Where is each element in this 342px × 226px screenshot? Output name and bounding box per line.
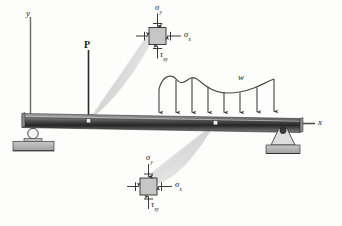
y-axis-label: y [26,9,30,18]
sigma-x-label-top: σx [184,30,191,41]
callout-cone-top [89,28,153,121]
tau-xy-label-bottom: τxy [151,200,159,211]
stress-point-marker-bottom [213,120,218,125]
beam [22,113,303,133]
sigma-x-label-bottom: σx [175,180,182,191]
distributed-load [159,76,274,112]
x-axis-label: x [318,118,322,127]
callout-cone-bottom [152,123,216,187]
sigma-y-label-bottom: σy [146,153,153,164]
sigma-y-label-top: σy [155,3,162,14]
beam-stress-figure: y x P w σy σx τxy σy σx τxy [0,0,342,226]
roller-support-left [13,128,54,151]
point-load-label: P [84,40,90,50]
tau-xy-label-top: τxy [160,50,168,61]
distributed-load-label: w [238,73,244,82]
stress-point-marker-top [86,118,91,123]
figure-canvas [0,0,342,226]
